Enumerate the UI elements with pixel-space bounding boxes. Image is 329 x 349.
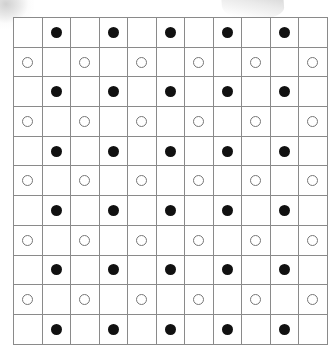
filled-circle-icon[interactable] bbox=[165, 86, 176, 97]
grid-cell-r10-c1[interactable] bbox=[14, 285, 43, 315]
grid-cell-r1-c11[interactable] bbox=[299, 18, 328, 48]
grid-cell-r4-c2[interactable] bbox=[42, 107, 71, 137]
filled-circle-icon[interactable] bbox=[108, 86, 119, 97]
grid-cell-r3-c10[interactable] bbox=[270, 77, 299, 107]
grid-cell-r4-c4[interactable] bbox=[99, 107, 128, 137]
grid-cell-r8-c2[interactable] bbox=[42, 225, 71, 255]
open-circle-icon[interactable] bbox=[79, 175, 90, 186]
open-circle-icon[interactable] bbox=[193, 57, 204, 68]
grid-cell-r8-c6[interactable] bbox=[156, 225, 185, 255]
filled-circle-icon[interactable] bbox=[165, 264, 176, 275]
grid-cell-r3-c1[interactable] bbox=[14, 77, 43, 107]
grid-cell-r2-c9[interactable] bbox=[242, 47, 271, 77]
grid-cell-r10-c7[interactable] bbox=[185, 285, 214, 315]
filled-circle-icon[interactable] bbox=[279, 264, 290, 275]
grid-cell-r2-c1[interactable] bbox=[14, 47, 43, 77]
grid-cell-r1-c1[interactable] bbox=[14, 18, 43, 48]
grid-cell-r2-c2[interactable] bbox=[42, 47, 71, 77]
grid-cell-r7-c5[interactable] bbox=[128, 196, 157, 226]
filled-circle-icon[interactable] bbox=[279, 205, 290, 216]
grid-cell-r10-c11[interactable] bbox=[299, 285, 328, 315]
open-circle-icon[interactable] bbox=[307, 294, 318, 305]
grid-cell-r9-c7[interactable] bbox=[185, 255, 214, 285]
grid-cell-r6-c7[interactable] bbox=[185, 166, 214, 196]
grid-cell-r1-c5[interactable] bbox=[128, 18, 157, 48]
open-circle-icon[interactable] bbox=[79, 57, 90, 68]
grid-cell-r3-c8[interactable] bbox=[213, 77, 242, 107]
grid-cell-r1-c4[interactable] bbox=[99, 18, 128, 48]
grid-cell-r8-c1[interactable] bbox=[14, 225, 43, 255]
grid-cell-r2-c6[interactable] bbox=[156, 47, 185, 77]
grid-cell-r4-c10[interactable] bbox=[270, 107, 299, 137]
open-circle-icon[interactable] bbox=[307, 116, 318, 127]
open-circle-icon[interactable] bbox=[22, 294, 33, 305]
grid-cell-r2-c10[interactable] bbox=[270, 47, 299, 77]
filled-circle-icon[interactable] bbox=[279, 324, 290, 335]
grid-cell-r10-c5[interactable] bbox=[128, 285, 157, 315]
filled-circle-icon[interactable] bbox=[108, 324, 119, 335]
grid-cell-r7-c7[interactable] bbox=[185, 196, 214, 226]
grid-cell-r1-c3[interactable] bbox=[71, 18, 100, 48]
grid-cell-r1-c9[interactable] bbox=[242, 18, 271, 48]
grid-cell-r10-c3[interactable] bbox=[71, 285, 100, 315]
grid-cell-r7-c9[interactable] bbox=[242, 196, 271, 226]
grid-cell-r11-c2[interactable] bbox=[42, 314, 71, 344]
grid-cell-r6-c9[interactable] bbox=[242, 166, 271, 196]
grid-cell-r5-c5[interactable] bbox=[128, 136, 157, 166]
grid-cell-r5-c8[interactable] bbox=[213, 136, 242, 166]
open-circle-icon[interactable] bbox=[22, 116, 33, 127]
filled-circle-icon[interactable] bbox=[279, 27, 290, 38]
grid-cell-r5-c4[interactable] bbox=[99, 136, 128, 166]
grid-cell-r10-c2[interactable] bbox=[42, 285, 71, 315]
filled-circle-icon[interactable] bbox=[279, 86, 290, 97]
filled-circle-icon[interactable] bbox=[51, 205, 62, 216]
grid-cell-r3-c2[interactable] bbox=[42, 77, 71, 107]
grid-cell-r5-c7[interactable] bbox=[185, 136, 214, 166]
filled-circle-icon[interactable] bbox=[51, 146, 62, 157]
grid-cell-r2-c7[interactable] bbox=[185, 47, 214, 77]
grid-cell-r11-c6[interactable] bbox=[156, 314, 185, 344]
grid-cell-r2-c3[interactable] bbox=[71, 47, 100, 77]
grid-cell-r11-c11[interactable] bbox=[299, 314, 328, 344]
open-circle-icon[interactable] bbox=[250, 57, 261, 68]
grid-cell-r4-c9[interactable] bbox=[242, 107, 271, 137]
filled-circle-icon[interactable] bbox=[165, 27, 176, 38]
filled-circle-icon[interactable] bbox=[279, 146, 290, 157]
grid-cell-r2-c8[interactable] bbox=[213, 47, 242, 77]
grid-cell-r9-c2[interactable] bbox=[42, 255, 71, 285]
open-circle-icon[interactable] bbox=[193, 116, 204, 127]
grid-cell-r4-c1[interactable] bbox=[14, 107, 43, 137]
filled-circle-icon[interactable] bbox=[222, 146, 233, 157]
grid-cell-r10-c4[interactable] bbox=[99, 285, 128, 315]
grid-cell-r5-c6[interactable] bbox=[156, 136, 185, 166]
grid-cell-r10-c6[interactable] bbox=[156, 285, 185, 315]
grid-cell-r8-c7[interactable] bbox=[185, 225, 214, 255]
open-circle-icon[interactable] bbox=[193, 294, 204, 305]
grid-cell-r10-c8[interactable] bbox=[213, 285, 242, 315]
filled-circle-icon[interactable] bbox=[165, 205, 176, 216]
filled-circle-icon[interactable] bbox=[222, 27, 233, 38]
grid-cell-r11-c7[interactable] bbox=[185, 314, 214, 344]
grid-cell-r9-c5[interactable] bbox=[128, 255, 157, 285]
grid-cell-r5-c3[interactable] bbox=[71, 136, 100, 166]
filled-circle-icon[interactable] bbox=[165, 146, 176, 157]
open-circle-icon[interactable] bbox=[79, 294, 90, 305]
open-circle-icon[interactable] bbox=[79, 116, 90, 127]
grid-cell-r11-c4[interactable] bbox=[99, 314, 128, 344]
grid-cell-r6-c3[interactable] bbox=[71, 166, 100, 196]
grid-cell-r1-c8[interactable] bbox=[213, 18, 242, 48]
open-circle-icon[interactable] bbox=[22, 175, 33, 186]
grid-cell-r3-c7[interactable] bbox=[185, 77, 214, 107]
grid-cell-r8-c11[interactable] bbox=[299, 225, 328, 255]
grid-cell-r4-c6[interactable] bbox=[156, 107, 185, 137]
grid-cell-r1-c6[interactable] bbox=[156, 18, 185, 48]
grid-cell-r7-c8[interactable] bbox=[213, 196, 242, 226]
grid-cell-r8-c4[interactable] bbox=[99, 225, 128, 255]
grid-cell-r11-c3[interactable] bbox=[71, 314, 100, 344]
grid-cell-r2-c11[interactable] bbox=[299, 47, 328, 77]
grid-cell-r2-c4[interactable] bbox=[99, 47, 128, 77]
grid-cell-r5-c9[interactable] bbox=[242, 136, 271, 166]
open-circle-icon[interactable] bbox=[79, 235, 90, 246]
grid-cell-r11-c1[interactable] bbox=[14, 314, 43, 344]
grid-cell-r9-c3[interactable] bbox=[71, 255, 100, 285]
